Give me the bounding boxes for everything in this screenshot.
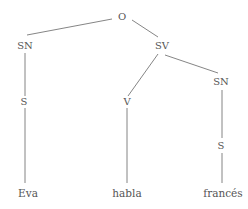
edge-sv-v [128,54,158,96]
node-sn-object: SN [213,77,229,87]
node-s-subject: S [21,97,28,107]
edge-sv-sn_object [165,55,218,73]
node-root: O [118,12,126,22]
leaf-frances: francés [203,188,242,199]
edge-root-sn_subject [27,19,112,35]
edge-root-sv [132,20,158,37]
leaf-eva: Eva [18,188,38,199]
syntax-tree-diagram: O SN SV S V SN S Eva habla francés [0,0,248,209]
leaf-habla: habla [112,188,141,199]
node-v: V [123,97,130,107]
node-sn-subject: SN [17,41,33,51]
node-sv: SV [155,41,169,51]
node-s-object: S [218,141,225,151]
